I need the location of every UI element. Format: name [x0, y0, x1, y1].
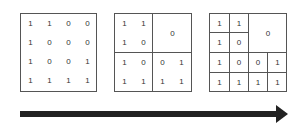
progress-arrow-icon — [0, 0, 304, 126]
